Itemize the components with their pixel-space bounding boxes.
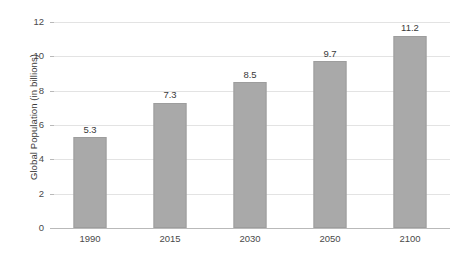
y-axis-tick-mark <box>50 228 54 229</box>
y-axis-tick-label: 2 <box>18 189 44 199</box>
y-axis-tick-label: 12 <box>18 17 44 27</box>
bar-group[interactable]: 8.5 <box>210 22 290 228</box>
bar-group[interactable]: 11.2 <box>370 22 450 228</box>
bar-value-label: 8.5 <box>243 70 256 80</box>
y-axis-tick-label: 6 <box>18 120 44 130</box>
bar[interactable] <box>234 82 267 228</box>
y-axis-tick-label: 8 <box>18 86 44 96</box>
bar[interactable] <box>74 137 107 228</box>
y-axis-tick-label: 10 <box>18 52 44 62</box>
x-axis-tick-label: 2015 <box>159 234 180 244</box>
bar-chart-figure: Global Population (in billions) 02468101… <box>0 0 463 258</box>
y-axis-tick-label: 0 <box>18 223 44 233</box>
axis-baseline <box>50 228 450 229</box>
bar-group[interactable]: 9.7 <box>290 22 370 228</box>
x-axis-tick-label: 1990 <box>79 234 100 244</box>
bar-group[interactable]: 7.3 <box>130 22 210 228</box>
bar[interactable] <box>154 103 187 228</box>
x-axis-tick-label: 2100 <box>399 234 420 244</box>
bars-layer: 5.37.38.59.711.2 <box>50 22 450 228</box>
bar-group[interactable]: 5.3 <box>50 22 130 228</box>
bar-value-label: 5.3 <box>83 125 96 135</box>
x-axis-tick-label: 2050 <box>319 234 340 244</box>
y-axis-tick-labels: 024681012 <box>14 22 44 228</box>
bar-value-label: 11.2 <box>401 23 419 33</box>
bar-value-label: 9.7 <box>323 49 336 59</box>
bar[interactable] <box>394 36 427 228</box>
bar[interactable] <box>314 61 347 228</box>
x-axis-tick-label: 2030 <box>239 234 260 244</box>
y-axis-tick-label: 4 <box>18 155 44 165</box>
bar-value-label: 7.3 <box>163 90 176 100</box>
x-axis-tick-labels: 19902015203020502100 <box>50 234 450 250</box>
